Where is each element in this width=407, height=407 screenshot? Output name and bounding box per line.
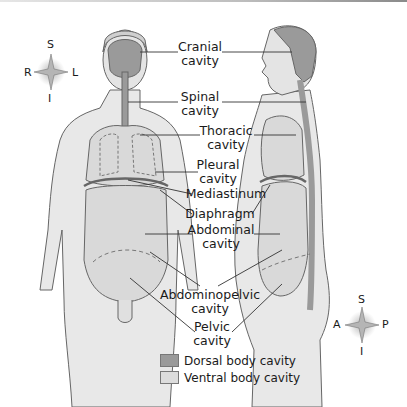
label-spinal-cavity: Spinalcavity: [181, 90, 219, 118]
compass-front-left: L: [72, 66, 78, 79]
compass-front-superior: S: [47, 38, 54, 51]
compass-front-inferior: I: [48, 92, 51, 105]
label-mediastinum: Mediastinum: [186, 187, 266, 201]
legend-item-ventral: Ventral body cavity: [160, 369, 300, 386]
label-pelvic-cavity: Pelviccavity: [193, 320, 231, 348]
compass-side-icon: [345, 307, 379, 343]
legend-label-dorsal: Dorsal body cavity: [184, 354, 296, 368]
legend-item-dorsal: Dorsal body cavity: [160, 352, 300, 369]
compass-front-right: R: [24, 66, 32, 79]
compass-side-superior: S: [358, 293, 365, 306]
legend-label-ventral: Ventral body cavity: [184, 371, 300, 385]
front-figure: [40, 30, 198, 407]
compass-front-icon: [34, 54, 68, 90]
legend-swatch-ventral: [160, 371, 179, 384]
label-abdominal-cavity: Abdominalcavity: [188, 223, 255, 251]
legend-swatch-dorsal: [160, 354, 179, 367]
compass-side-posterior: P: [382, 318, 389, 331]
label-pleural-cavity: Pleuralcavity: [197, 158, 240, 186]
label-thoracic-cavity: Thoraciccavity: [199, 124, 252, 152]
compass-side-anterior: A: [333, 318, 341, 331]
label-abdominopelvic-cavity: Abdominopelviccavity: [160, 288, 260, 316]
label-diaphragm: Diaphragm: [185, 207, 255, 221]
compass-side-inferior: I: [360, 345, 363, 358]
label-cranial-cavity: Cranialcavity: [178, 40, 222, 68]
legend: Dorsal body cavity Ventral body cavity: [160, 352, 300, 386]
